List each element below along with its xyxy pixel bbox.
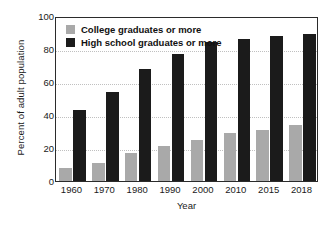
legend-label-college: College graduates or more xyxy=(81,23,201,36)
bar-college xyxy=(191,140,204,181)
bar-highschool xyxy=(106,92,119,181)
bar-chart: Percent of adult population 020406080100… xyxy=(0,0,326,226)
bar-group xyxy=(289,18,316,181)
chart-legend: College graduates or more High school gr… xyxy=(66,23,221,49)
y-axis-tick-label: 100 xyxy=(38,12,54,22)
bar-group xyxy=(224,18,251,181)
bar-college xyxy=(59,168,72,181)
x-axis-tick-label: 2015 xyxy=(252,184,285,195)
bar-highschool xyxy=(270,36,283,181)
legend-item: High school graduates or more xyxy=(66,36,221,49)
y-axis-tick-label: 80 xyxy=(43,45,54,55)
bar-highschool xyxy=(303,34,316,181)
legend-item: College graduates or more xyxy=(66,23,221,36)
x-axis-tick-label: 1980 xyxy=(121,184,154,195)
x-axis-tick-label: 2000 xyxy=(187,184,220,195)
bar-college xyxy=(289,125,302,181)
legend-swatch-college-icon xyxy=(66,25,75,34)
x-axis-tick-label: 1990 xyxy=(154,184,187,195)
bar-highschool xyxy=(238,39,251,181)
legend-swatch-highschool-icon xyxy=(66,38,75,47)
x-axis-tick-label: 1970 xyxy=(88,184,121,195)
x-axis-tick-label: 2010 xyxy=(219,184,252,195)
bar-college xyxy=(92,163,105,181)
bar-highschool xyxy=(73,110,86,181)
y-axis-tick-label: 40 xyxy=(43,111,54,121)
x-axis-tick-label: 2018 xyxy=(285,184,318,195)
bar-college xyxy=(125,153,138,181)
y-axis-tick-label: 0 xyxy=(49,177,54,187)
bar-highschool xyxy=(172,54,185,181)
y-axis-tick-label: 60 xyxy=(43,78,54,88)
y-axis-tick-label: 20 xyxy=(43,144,54,154)
plot-area: College graduates or more High school gr… xyxy=(55,17,318,182)
bar-college xyxy=(224,133,237,181)
bar-group xyxy=(256,18,283,181)
bar-highschool xyxy=(139,69,152,181)
legend-label-highschool: High school graduates or more xyxy=(81,36,221,49)
x-axis-tick-labels: 19601970198019902000201020152018 xyxy=(55,184,318,198)
x-axis-title: Year xyxy=(55,200,318,211)
bar-college xyxy=(158,146,171,181)
bar-college xyxy=(256,130,269,181)
x-axis-tick-label: 1960 xyxy=(55,184,88,195)
bar-highschool xyxy=(205,42,218,181)
